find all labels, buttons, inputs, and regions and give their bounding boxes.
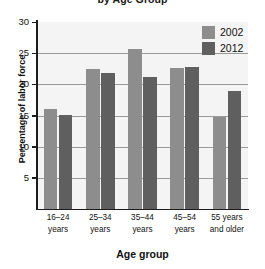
chart-legend: 2002 2012 (202, 24, 264, 56)
legend-swatch-icon-2012 (202, 42, 215, 55)
y-axis-tick-label: 10 (0, 142, 29, 152)
y-axis-tick-label: 15 (0, 111, 29, 121)
y-axis-tick (32, 177, 37, 179)
legend-label-2002: 2002 (220, 27, 243, 38)
bar (185, 67, 199, 209)
bar (44, 109, 58, 209)
bar (101, 73, 115, 210)
y-axis-tick (32, 146, 37, 148)
y-axis-tick (32, 84, 37, 86)
bar (213, 117, 227, 209)
legend-item-2012: 2012 (202, 40, 264, 56)
bar (228, 91, 242, 209)
bar (86, 69, 100, 209)
y-axis-tick-label: 20 (0, 79, 29, 89)
y-axis-tick-label: 5 (0, 173, 29, 183)
chart-title: by Age Group (0, 0, 265, 5)
legend-label-2012: 2012 (220, 43, 243, 54)
y-axis-tick (32, 115, 37, 117)
legend-item-2002: 2002 (202, 24, 264, 40)
bar (143, 77, 157, 209)
bar-chart: by Age Group Percentage of labor force 5… (0, 0, 265, 269)
y-axis-tick-label: 30 (0, 17, 29, 27)
x-axis-line (36, 209, 249, 211)
x-axis-title: Age group (37, 248, 248, 260)
legend-swatch-icon-2002 (202, 26, 215, 39)
x-axis-tick-labels: 16–24 years25–34 years35–44 years45–54 y… (37, 212, 248, 246)
bar (128, 49, 142, 209)
bar (170, 68, 184, 209)
x-axis-tick-label: 55 years and older (202, 212, 252, 235)
y-axis-tick-label: 25 (0, 48, 29, 58)
bar (59, 115, 73, 209)
y-axis-tick (32, 22, 37, 24)
y-axis-tick (32, 53, 37, 55)
